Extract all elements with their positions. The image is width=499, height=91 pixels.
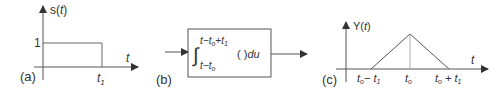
upper-limit: t−to+t1: [200, 35, 228, 47]
tick-t0: to: [405, 72, 412, 85]
y-axis-label: s(t): [50, 3, 67, 17]
panel-a: s(t) 1 t t1 (a): [20, 3, 138, 87]
integrand: ( )du: [237, 48, 260, 60]
x-axis-label: t: [126, 51, 130, 65]
tick-t0-minus-t1: to− t1: [357, 72, 381, 85]
tick-t1: t1: [97, 71, 105, 87]
panel-label-a: (a): [20, 69, 36, 84]
panel-b: ∫ t−to+t1 t−to ( )du (b): [156, 29, 307, 87]
y-axis-label: Y(t): [353, 20, 371, 32]
integral-sign: ∫: [192, 44, 200, 67]
lower-limit: t−to: [200, 60, 215, 72]
level-label: 1: [34, 36, 41, 50]
panel-label-b: (b): [156, 72, 172, 87]
panel-c: Y(t) t to− t1 to to + t1 (c): [322, 20, 488, 87]
tick-t0-plus-t1: to + t1: [435, 72, 462, 85]
signal-diagram: s(t) 1 t t1 (a) ∫ t−to+t1 t−to ( )du (b)…: [0, 0, 499, 91]
x-axis-label: t: [471, 53, 475, 67]
rect-pulse: [43, 43, 102, 67]
panel-label-c: (c): [322, 72, 337, 87]
